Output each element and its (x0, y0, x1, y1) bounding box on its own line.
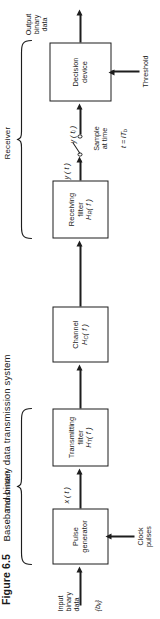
transmitting-filter-h: H (83, 442, 92, 447)
receiver-brace (16, 38, 32, 240)
channel-to-receiver-wire (79, 245, 81, 306)
input-arrowhead (76, 566, 82, 572)
receiving-filter-subscript: R (86, 210, 92, 214)
threshold-arrowhead (108, 69, 114, 75)
transmitting-filter-subscript: T (86, 438, 92, 441)
y-of-t-wire (79, 160, 81, 180)
transmitting-filter-line1: Transmitting (67, 416, 76, 458)
sample-label: Sample at time (92, 119, 108, 157)
receiving-filter-line1: Receiving (67, 192, 76, 225)
receiving-filter-transfer-function: HR( f ) (84, 198, 93, 219)
clock-arrowhead (105, 533, 111, 539)
channel-transfer-function: HC( f ) (80, 323, 89, 344)
receiving-filter-h: H (83, 214, 92, 219)
block-receiving-filter: Receiving filter HR( f ) (52, 180, 108, 238)
output-wire (79, 14, 81, 42)
channel-arg: ( f ) (79, 323, 88, 335)
channel-h: H (79, 339, 88, 344)
transmitting-filter-arg: ( f ) (83, 427, 92, 439)
x-of-t-label: x ( t ) (62, 487, 70, 503)
input-sequence-open: {b (92, 605, 101, 611)
sample-time-label: t = iTb (111, 121, 127, 155)
figure-diagram: Input binary data {bk} Pulse generator C… (0, 0, 160, 619)
transmitter-to-channel-wire (79, 369, 81, 408)
receiver-section-label: Receiver (2, 126, 11, 159)
sampler-to-decision-wire (79, 108, 81, 134)
sample-time-subscript: b (121, 128, 127, 131)
threshold-wire (111, 70, 139, 72)
transmitter-to-channel-arrowhead (76, 364, 82, 370)
figure-number: Figure 6.5 (0, 554, 12, 605)
transmitting-filter-transfer-function: HT( f ) (84, 427, 93, 447)
input-sequence-label: {bk} (85, 599, 101, 611)
decision-device-line2: device (80, 61, 89, 83)
threshold-label: Threshold (141, 50, 149, 92)
y-of-t-label: y ( t ) (62, 163, 70, 179)
pulse-generator-line2: generator (80, 520, 89, 553)
sample-time-expression: t = iT (118, 131, 127, 147)
x-of-t-wire (79, 473, 81, 508)
y-of-ti-label: y ( ti ) (60, 125, 76, 143)
channel-to-receiver-arrowhead (76, 240, 82, 246)
clock-wire (108, 535, 134, 537)
block-decision-device: Decision device (49, 42, 111, 101)
input-sequence-close: } (92, 599, 101, 601)
input-binary-data-label: Input binary data (56, 591, 81, 611)
block-channel: Channel HC( f ) (52, 306, 108, 362)
y-of-t-arrowhead (76, 156, 82, 162)
x-of-t-arrowhead (76, 468, 82, 474)
block-transmitting-filter: Transmitting filter HT( f ) (52, 408, 108, 466)
figure-caption-text: Baseband binary data transmission system (1, 355, 12, 542)
clock-pulses-label: Clock pulses (136, 522, 152, 550)
sampler-to-decision-arrowhead (76, 103, 82, 109)
transmitter-brace (16, 406, 32, 566)
y-of-ti-close: ) (67, 125, 76, 129)
channel-subscript: C (82, 335, 88, 339)
block-pulse-generator: Pulse generator (52, 508, 108, 564)
y-of-ti-open: y ( t (67, 131, 76, 143)
output-arrowhead (76, 9, 82, 15)
receiving-filter-arg: ( f ) (83, 198, 92, 210)
